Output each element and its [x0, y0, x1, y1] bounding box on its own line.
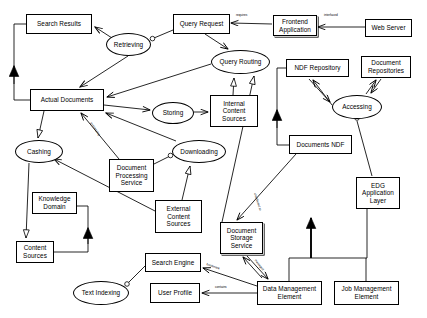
edge-label-interfaced: interfaced	[324, 14, 338, 17]
node-cashing[interactable]: Cashing	[15, 140, 63, 163]
node-storing[interactable]: Storing	[152, 102, 194, 124]
node-internal-content-sources[interactable]: Internal Content Sources	[210, 95, 258, 127]
node-actual-documents[interactable]: Actual Documents	[30, 89, 104, 111]
node-edg-application-layer[interactable]: EDG Application Layer	[356, 177, 400, 209]
node-frontend-application[interactable]: Frontend Application	[273, 15, 317, 36]
uml-collaboration-diagram: Search Results Query Request Frontend Ap…	[0, 0, 427, 318]
node-query-request[interactable]: Query Request	[173, 14, 230, 34]
edge-label-requires: requires	[236, 14, 247, 17]
node-job-management-element[interactable]: Job Management Element	[334, 281, 399, 305]
node-search-results[interactable]: Search Results	[26, 14, 92, 34]
node-knowledge-domain[interactable]: Knowledge Domain	[32, 192, 77, 214]
node-search-engine[interactable]: Search Engine	[145, 253, 201, 272]
node-documents-ndf[interactable]: Documents NDF	[289, 135, 352, 154]
node-document-storage-service[interactable]: Document Storage Service	[220, 222, 263, 254]
node-document-repositories[interactable]: Document Repositories	[361, 56, 411, 78]
node-ndf-repository[interactable]: NDF Repository	[286, 59, 349, 77]
node-downloading[interactable]: Downloading	[172, 140, 226, 163]
node-web-server[interactable]: Web Server	[365, 19, 412, 37]
node-query-routing[interactable]: Query Routing	[211, 50, 270, 74]
node-external-content-sources[interactable]: External Content Sources	[155, 200, 202, 233]
node-content-sources[interactable]: Content Sources	[16, 241, 54, 263]
edge-label-contains: contains	[215, 286, 227, 289]
node-accessing[interactable]: Accessing	[332, 95, 382, 119]
node-document-processing-service[interactable]: Document Processing Service	[109, 159, 154, 192]
node-text-indexing[interactable]: Text Indexing	[73, 281, 129, 305]
node-user-profile[interactable]: User Profile	[150, 283, 200, 303]
node-data-management-element[interactable]: Data Management Element	[257, 281, 322, 305]
node-retrieving[interactable]: Retrieving	[106, 33, 151, 56]
